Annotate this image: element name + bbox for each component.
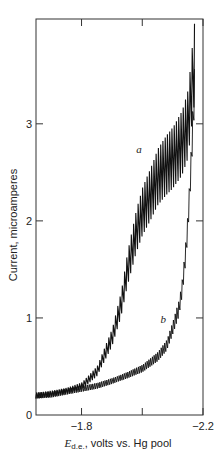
curve-b <box>36 69 195 398</box>
curve-label-a: a <box>136 143 142 155</box>
y-tick-label-2: 2 <box>26 215 32 227</box>
ticks: −1.8−2.20123 <box>26 19 214 432</box>
y-tick-label-1: 1 <box>26 312 32 324</box>
x-tick-label-0: −1.8 <box>71 420 93 432</box>
curves: ab <box>36 24 195 399</box>
curve-label-b: b <box>160 313 166 325</box>
x-axis-title-rest: , volts vs. Hg pool <box>85 437 172 449</box>
y-tick-label-3: 3 <box>26 118 32 130</box>
x-axis-title-sub: d.e. <box>71 442 84 451</box>
y-tick-label-0: 0 <box>26 409 32 421</box>
y-axis-title: Current, microamperes <box>7 168 19 281</box>
x-tick-label-2: −2.2 <box>192 420 214 432</box>
curve-a <box>36 24 195 399</box>
plot-frame <box>36 19 203 415</box>
x-axis-title: Ed.e., volts vs. Hg pool <box>64 437 172 451</box>
chart: −1.8−2.20123 ab Current, microamperes Ed… <box>0 0 221 451</box>
